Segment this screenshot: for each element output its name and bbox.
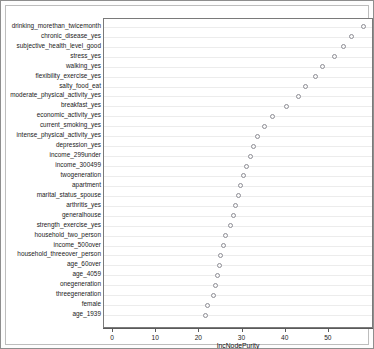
y-axis-label: age_4059 bbox=[72, 271, 101, 277]
y-axis-label: female bbox=[82, 301, 101, 307]
gridline bbox=[104, 106, 372, 107]
gridline bbox=[104, 116, 372, 117]
y-axis-label: subjective_health_level_good bbox=[17, 43, 101, 49]
gridline bbox=[104, 285, 372, 286]
data-point bbox=[341, 44, 346, 49]
y-axis-label: arthritis_yes bbox=[66, 202, 101, 208]
data-point bbox=[349, 34, 354, 39]
y-axis-label: household_threeover_person bbox=[17, 251, 101, 257]
data-point bbox=[218, 253, 223, 258]
data-point bbox=[248, 154, 253, 159]
x-axis-tick-label: 20 bbox=[195, 334, 202, 341]
gridline bbox=[104, 67, 372, 68]
y-axis-label: threegeneration bbox=[56, 291, 101, 297]
gridline bbox=[104, 206, 372, 207]
y-axis-label: apartment bbox=[72, 182, 101, 188]
data-point bbox=[221, 243, 226, 248]
y-axis-label: strength_exercise_yes bbox=[37, 221, 101, 227]
x-axis-tick-label: 10 bbox=[152, 334, 159, 341]
y-axis-label: moderate_physical_activity_yes bbox=[10, 92, 101, 98]
data-point bbox=[203, 313, 208, 318]
gridline bbox=[104, 126, 372, 127]
data-point bbox=[236, 193, 241, 198]
x-axis-tick bbox=[242, 328, 243, 332]
data-point bbox=[211, 293, 216, 298]
gridline bbox=[104, 136, 372, 137]
y-axis-label: salty_food_eat bbox=[59, 82, 101, 88]
y-axis-label: depression_yes bbox=[56, 142, 101, 148]
gridline bbox=[104, 295, 372, 296]
gridline bbox=[104, 265, 372, 266]
y-axis-label: drinking_morethan_twicemonth bbox=[12, 23, 101, 29]
data-point bbox=[303, 84, 308, 89]
gridline bbox=[104, 156, 372, 157]
x-axis-tick bbox=[285, 328, 286, 332]
y-axis-label: income_500over bbox=[53, 241, 101, 247]
y-axis-label: stress_yes bbox=[70, 53, 101, 59]
figure-outer-border: drinking_morethan_twicemonthchronic_dise… bbox=[0, 0, 374, 349]
y-axis-label: economic_activity_yes bbox=[37, 112, 101, 118]
gridline bbox=[104, 47, 372, 48]
plot-area bbox=[103, 18, 373, 328]
gridline bbox=[104, 77, 372, 78]
x-axis-tick-label: 50 bbox=[324, 334, 331, 341]
data-point bbox=[361, 24, 366, 29]
data-point bbox=[262, 124, 267, 129]
y-axis-label: onegeneration bbox=[60, 281, 101, 287]
y-axis-label: chronic_disease_yes bbox=[41, 33, 101, 39]
data-point bbox=[270, 114, 275, 119]
y-axis-label: age_1939 bbox=[72, 311, 101, 317]
y-axis-label: household_two_person bbox=[35, 231, 102, 237]
y-axis-label: marital_status_spouse bbox=[37, 192, 101, 198]
data-point bbox=[313, 74, 318, 79]
data-point bbox=[213, 283, 218, 288]
x-axis-ticks: 01020304050 bbox=[103, 328, 373, 336]
data-point bbox=[228, 223, 233, 228]
gridline bbox=[104, 246, 372, 247]
data-point bbox=[320, 64, 325, 69]
x-axis-tick bbox=[155, 328, 156, 332]
data-point bbox=[233, 203, 238, 208]
x-axis-tick-label: 0 bbox=[110, 334, 114, 341]
x-axis-tick-label: 40 bbox=[281, 334, 288, 341]
y-axis-label: current_smoking_yes bbox=[40, 122, 101, 128]
data-point bbox=[231, 213, 236, 218]
gridline bbox=[104, 255, 372, 256]
data-point bbox=[244, 164, 249, 169]
x-axis-tick bbox=[328, 328, 329, 332]
y-axis-label: twogeneration bbox=[61, 172, 101, 178]
y-axis-label: income_299under bbox=[50, 152, 101, 158]
gridline bbox=[104, 87, 372, 88]
gridline bbox=[104, 176, 372, 177]
y-axis-label: breakfast_yes bbox=[61, 102, 101, 108]
data-point bbox=[296, 94, 301, 99]
y-axis-category-labels: drinking_morethan_twicemonthchronic_dise… bbox=[12, 18, 102, 328]
x-axis-tick-label: 30 bbox=[238, 334, 245, 341]
gridline bbox=[104, 166, 372, 167]
y-axis-label: income_300499 bbox=[55, 162, 101, 168]
data-point bbox=[241, 173, 246, 178]
gridline bbox=[104, 275, 372, 276]
y-axis-label: flexibility_exercise_yes bbox=[36, 72, 101, 78]
data-point bbox=[238, 183, 243, 188]
data-point bbox=[332, 54, 337, 59]
y-axis-label: generalhouse bbox=[62, 212, 101, 218]
y-axis-label: age_60over bbox=[67, 261, 101, 267]
gridline bbox=[104, 315, 372, 316]
gridline bbox=[104, 96, 372, 97]
data-point bbox=[215, 273, 220, 278]
gridline bbox=[104, 305, 372, 306]
gridline bbox=[104, 146, 372, 147]
x-axis-tick bbox=[112, 328, 113, 332]
data-point bbox=[255, 134, 260, 139]
y-axis-label: intense_physical_activity_yes bbox=[17, 132, 101, 138]
gridline bbox=[104, 27, 372, 28]
gridline bbox=[104, 37, 372, 38]
x-axis-title: IncNodePurity bbox=[103, 342, 373, 349]
y-axis-label: walking_yes bbox=[66, 62, 101, 68]
data-point bbox=[205, 303, 210, 308]
gridline bbox=[104, 216, 372, 217]
data-point bbox=[223, 233, 228, 238]
x-axis-tick bbox=[198, 328, 199, 332]
gridline bbox=[104, 226, 372, 227]
